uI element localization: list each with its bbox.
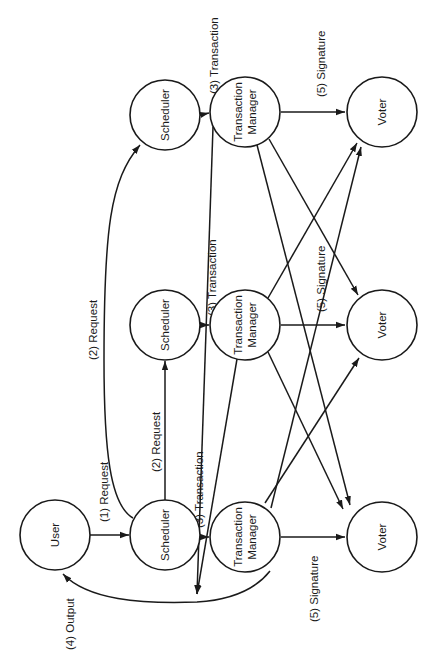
nodes: User Scheduler Scheduler Scheduler Trans… [20, 77, 417, 572]
node-tm-2-label-line2: Manager [246, 302, 258, 348]
node-tm-1-label-line2: Manager [246, 514, 258, 560]
node-voter-2-label: Voter [376, 311, 388, 338]
label-output: (4) Output [64, 597, 76, 650]
node-voter-1-label: Voter [376, 523, 388, 550]
node-transaction-manager-2: Transaction Manager [210, 290, 280, 360]
node-scheduler-2-label: Scheduler [159, 299, 171, 351]
label-signature-1: (5) Signature [308, 556, 320, 622]
node-transaction-manager-1: Transaction Manager [210, 502, 280, 572]
label-request-1: (1) Request [98, 461, 110, 522]
node-user: User [20, 500, 90, 570]
node-scheduler-1-label: Scheduler [159, 509, 171, 561]
node-voter-3-label: Voter [376, 98, 388, 125]
node-voter-2: Voter [347, 290, 417, 360]
node-tm-3-label-line1: Transaction [232, 82, 244, 142]
node-scheduler-3-label: Scheduler [159, 89, 171, 141]
label-signature-3: (5) Signature [315, 31, 327, 97]
edge-tm-2-to-voter-3 [268, 143, 357, 298]
edge-scheduler-3-to-tm-3 [200, 113, 209, 115]
label-request-2b: (2) Request [150, 411, 162, 472]
node-transaction-manager-3: Transaction Manager [210, 77, 280, 147]
node-tm-1-label-line1: Transaction [232, 507, 244, 567]
node-scheduler-3: Scheduler [130, 80, 200, 150]
node-tm-3-label-line2: Manager [246, 89, 258, 135]
edge-tm-1-to-voter-2 [265, 358, 359, 503]
node-voter-1: Voter [347, 502, 417, 572]
node-scheduler-2: Scheduler [130, 290, 200, 360]
node-user-label: User [49, 523, 61, 547]
label-transaction-3: (3) Transaction [208, 17, 220, 94]
label-signature-2: (5) Signature [315, 246, 327, 312]
edge-output-to-user [63, 571, 270, 602]
label-request-2a: (2) Request [87, 299, 99, 360]
node-voter-3: Voter [347, 77, 417, 147]
edge-tm-2-to-voter-1 [268, 352, 343, 509]
node-tm-2-label-line1: Transaction [232, 295, 244, 355]
node-scheduler-1: Scheduler [130, 500, 200, 570]
transaction-flow-diagram: (1) Request (2) Request (2) Request (3) … [0, 0, 431, 652]
